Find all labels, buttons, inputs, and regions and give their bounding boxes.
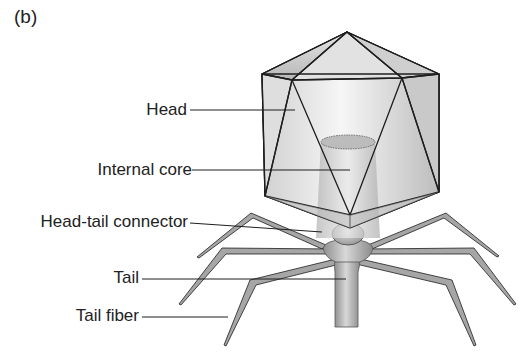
tail-fiber-middle-right xyxy=(362,248,516,305)
panel-label: (b) xyxy=(14,6,37,28)
label-head: Head xyxy=(146,100,187,120)
label-internal-core: Internal core xyxy=(98,160,193,180)
tail-shaft xyxy=(335,258,361,327)
tail-fiber-middle-left xyxy=(179,248,334,305)
label-tail: Tail xyxy=(113,268,139,288)
leader-head-tail-connector xyxy=(190,223,322,232)
tail-fiber-lower-right xyxy=(356,258,476,346)
label-tail-fiber: Tail fiber xyxy=(76,306,139,326)
bacteriophage-diagram: (b) Head Internal core Head-tail connect… xyxy=(0,0,528,358)
label-head-tail-connector: Head-tail connector xyxy=(41,212,188,232)
phage-illustration xyxy=(0,0,528,358)
tail-fiber-lower-left xyxy=(224,258,340,346)
